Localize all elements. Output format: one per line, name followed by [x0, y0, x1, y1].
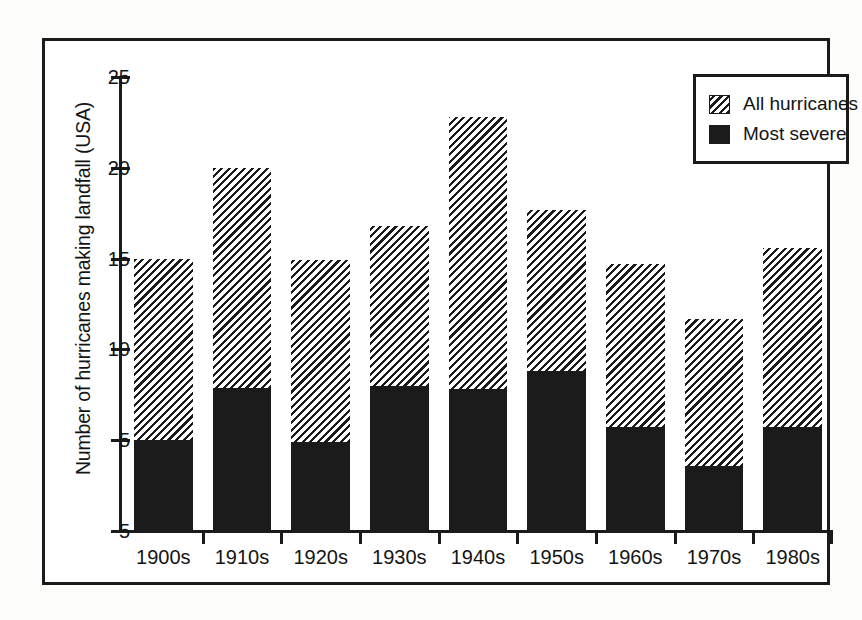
x-axis-tick-mark	[595, 530, 598, 544]
bar-1920s	[291, 260, 350, 531]
bar-segment-all-hurricanes	[213, 168, 272, 388]
x-axis-tick-mark	[359, 530, 362, 544]
x-axis-label-1900s: 1900s	[124, 546, 203, 569]
x-axis-tick-mark	[438, 530, 441, 544]
legend-swatch-hatch	[709, 95, 730, 114]
y-axis-tick-label: 25	[84, 66, 130, 89]
bar-segment-most-severe	[763, 427, 822, 531]
bar-segment-most-severe	[606, 427, 665, 531]
bar-1980s	[763, 248, 822, 531]
bar-segment-all-hurricanes	[291, 260, 350, 442]
bar-segment-all-hurricanes	[527, 210, 586, 372]
bar-segment-most-severe	[213, 388, 272, 531]
bar-1900s	[134, 259, 193, 531]
y-axis-line	[119, 76, 122, 533]
bar-segment-most-severe	[527, 371, 586, 531]
y-axis-tick-label: 10	[84, 338, 130, 361]
legend-swatch-solid	[709, 125, 730, 144]
x-axis-tick-mark	[280, 530, 283, 544]
x-axis-label-1930s: 1930s	[360, 546, 439, 569]
x-axis-label-1960s: 1960s	[596, 546, 675, 569]
legend-label: Most severe	[743, 123, 846, 145]
y-axis-tick-label: 15	[84, 248, 130, 271]
bar-1950s	[527, 210, 586, 531]
bar-1960s	[606, 264, 665, 531]
x-axis-tick-mark	[202, 530, 205, 544]
bar-segment-all-hurricanes	[763, 248, 822, 428]
x-axis-label-1940s: 1940s	[439, 546, 518, 569]
y-axis-tick-label: 20	[84, 157, 130, 180]
bar-segment-most-severe	[291, 442, 350, 531]
legend-item: Most severe	[696, 119, 846, 149]
bar-segment-most-severe	[449, 389, 508, 531]
bar-1910s	[213, 168, 272, 531]
bar-segment-most-severe	[685, 466, 744, 531]
chart-frame: Number of hurricanes making landfall (US…	[42, 38, 830, 585]
bar-segment-most-severe	[134, 440, 193, 531]
y-axis-tick-label: 5	[84, 520, 130, 543]
y-axis-tick-label: 5	[84, 429, 130, 452]
chart-legend: All hurricanesMost severe	[693, 74, 849, 164]
x-axis-label-1910s: 1910s	[203, 546, 282, 569]
bar-segment-most-severe	[370, 386, 429, 531]
bar-1940s	[449, 117, 508, 531]
bar-segment-all-hurricanes	[685, 319, 744, 466]
bar-1970s	[685, 319, 744, 531]
bar-segment-all-hurricanes	[606, 264, 665, 427]
legend-label: All hurricanes	[743, 93, 858, 115]
x-axis-label-1980s: 1980s	[753, 546, 832, 569]
legend-item: All hurricanes	[696, 89, 846, 119]
x-axis-label-1920s: 1920s	[281, 546, 360, 569]
x-axis-tick-mark	[752, 530, 755, 544]
bar-segment-all-hurricanes	[134, 259, 193, 441]
bar-segment-all-hurricanes	[449, 117, 508, 389]
x-axis-tick-mark	[830, 530, 833, 544]
x-axis-tick-mark	[516, 530, 519, 544]
x-axis-label-1970s: 1970s	[675, 546, 754, 569]
x-axis-label-1950s: 1950s	[517, 546, 596, 569]
bar-1930s	[370, 226, 429, 531]
bar-segment-all-hurricanes	[370, 226, 429, 386]
figure-canvas: Number of hurricanes making landfall (US…	[0, 0, 862, 620]
x-axis-tick-mark	[674, 530, 677, 544]
